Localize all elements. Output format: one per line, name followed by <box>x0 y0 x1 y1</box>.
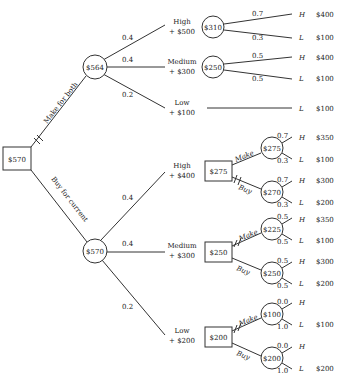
svg-text:$100: $100 <box>316 321 334 329</box>
label-buy-for-current: Buy for current <box>49 175 89 223</box>
svg-text:1.0: 1.0 <box>277 323 288 331</box>
svg-text:0.5: 0.5 <box>277 282 288 290</box>
svg-text:$225: $225 <box>263 226 281 234</box>
prob-label: 0.4 <box>122 240 134 248</box>
svg-text:0.5: 0.5 <box>277 257 288 265</box>
branch-sublabel: + $300 <box>169 68 195 76</box>
svg-text:$564: $564 <box>86 64 104 72</box>
svg-text:0.3: 0.3 <box>277 157 288 165</box>
svg-text:L: L <box>298 237 304 245</box>
svg-text:H: H <box>298 258 306 266</box>
branch-label: Medium <box>167 58 197 66</box>
svg-text:$570: $570 <box>86 248 104 256</box>
label-make-for-both: Make for both <box>42 80 80 125</box>
branch-sublabel: + $300 <box>169 252 195 260</box>
svg-text:0.7: 0.7 <box>252 10 263 18</box>
svg-text:L: L <box>298 280 304 288</box>
svg-text:$250: $250 <box>204 64 222 72</box>
branch-sublabel: + $100 <box>169 109 195 117</box>
branch-label: Low <box>175 327 190 335</box>
branch-sublabel: + $200 <box>169 337 195 345</box>
svg-text:0.5: 0.5 <box>252 52 263 60</box>
svg-text:H: H <box>298 216 306 224</box>
svg-text:Make: Make <box>233 149 255 164</box>
svg-text:$350: $350 <box>316 134 334 142</box>
svg-text:$200: $200 <box>210 334 228 342</box>
decision-node: $275 <box>205 161 232 181</box>
prob-label: 0.4 <box>122 194 134 202</box>
chance-node: $225 $250 <box>261 218 283 284</box>
svg-text:$275: $275 <box>210 168 228 176</box>
svg-text:H: H <box>298 299 306 307</box>
svg-text:L: L <box>298 321 304 329</box>
svg-text:$200: $200 <box>316 199 334 207</box>
svg-text:0.7: 0.7 <box>277 176 288 184</box>
prob-label: 0.4 <box>122 34 134 42</box>
svg-text:0.3: 0.3 <box>252 34 263 42</box>
svg-text:$310: $310 <box>204 24 222 32</box>
chance-node: $310 <box>202 16 224 38</box>
svg-text:L: L <box>298 105 304 113</box>
svg-text:$300: $300 <box>316 258 334 266</box>
svg-text:L: L <box>298 199 304 207</box>
svg-text:H: H <box>298 177 306 185</box>
branch-label: High <box>173 18 191 26</box>
svg-text:0.5: 0.5 <box>252 75 263 83</box>
branch-label: Low <box>175 99 190 107</box>
svg-text:$400: $400 <box>316 11 334 19</box>
chance-node: $250 <box>202 56 224 78</box>
svg-text:$400: $400 <box>316 54 334 62</box>
branch-label: Medium <box>167 242 197 250</box>
svg-text:$300: $300 <box>316 177 334 185</box>
svg-text:$250: $250 <box>263 270 281 278</box>
chance-node-upper: $564 <box>83 55 107 79</box>
svg-text:$270: $270 <box>263 189 281 197</box>
svg-text:$350: $350 <box>316 216 334 224</box>
svg-text:0.0: 0.0 <box>277 342 288 350</box>
chance-node: $275 $270 <box>261 137 283 203</box>
svg-text:Make: Make <box>237 228 259 243</box>
chance-node: $100 $200 <box>261 303 283 369</box>
chance-node-lower: $570 <box>83 239 107 263</box>
svg-text:0.5: 0.5 <box>277 238 288 246</box>
svg-text:0.0: 0.0 <box>277 298 288 306</box>
svg-text:$200: $200 <box>316 280 334 288</box>
svg-text:0.3: 0.3 <box>277 201 288 209</box>
svg-text:$100: $100 <box>316 75 334 83</box>
svg-text:0.7: 0.7 <box>277 132 288 140</box>
svg-text:L: L <box>298 365 304 373</box>
svg-text:$250: $250 <box>210 249 228 257</box>
prob-label: 0.2 <box>122 91 133 99</box>
svg-text:$570: $570 <box>8 156 26 164</box>
svg-text:Make: Make <box>237 313 259 328</box>
branch-label: High <box>173 162 191 170</box>
prob-label: 0.4 <box>122 56 134 64</box>
branch-sublabel: + $400 <box>169 172 195 180</box>
svg-text:H: H <box>298 343 306 351</box>
pruned-marker <box>34 135 43 144</box>
svg-text:L: L <box>298 156 304 164</box>
svg-text:1.0: 1.0 <box>277 367 288 375</box>
svg-text:0.5: 0.5 <box>277 213 288 221</box>
root-decision-node: $570 <box>3 147 31 170</box>
decision-node: $250 <box>205 242 232 262</box>
decision-node: $200 <box>205 327 232 347</box>
decision-tree: $570 Make for both Buy for current $564 … <box>0 0 341 387</box>
svg-text:H: H <box>298 11 306 19</box>
svg-text:H: H <box>298 54 306 62</box>
branch-sublabel: + $500 <box>169 28 195 36</box>
svg-text:$100: $100 <box>316 34 334 42</box>
svg-text:L: L <box>298 34 304 42</box>
svg-text:$100: $100 <box>316 237 334 245</box>
svg-text:$275: $275 <box>263 145 281 153</box>
svg-text:$100: $100 <box>316 156 334 164</box>
svg-text:$200: $200 <box>316 365 334 373</box>
svg-text:L: L <box>298 75 304 83</box>
svg-text:$100: $100 <box>316 105 334 113</box>
svg-text:$200: $200 <box>263 355 281 363</box>
svg-text:H: H <box>298 134 306 142</box>
svg-text:Buy: Buy <box>234 264 252 277</box>
svg-text:$100: $100 <box>263 311 281 319</box>
prob-label: 0.2 <box>122 303 133 311</box>
